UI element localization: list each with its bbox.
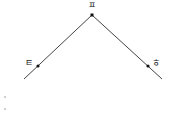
- right-label: ㅎ: [152, 59, 160, 68]
- left-ray: [24, 15, 92, 79]
- left-point: [36, 64, 39, 67]
- right-ray: [92, 15, 162, 79]
- apex-point: [91, 14, 94, 17]
- scan-artifact: [4, 96, 6, 98]
- scan-artifact: [4, 108, 6, 110]
- left-label: ㅌ: [25, 59, 33, 68]
- ray-diagram: ㅍ ㅌ ㅎ: [0, 0, 183, 120]
- apex-label: ㅍ: [88, 1, 96, 10]
- right-point: [146, 64, 149, 67]
